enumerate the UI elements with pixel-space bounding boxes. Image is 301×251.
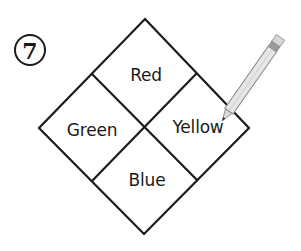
quadrant-label-top: Red — [130, 65, 162, 85]
quadrant-label-bottom: Blue — [129, 170, 166, 190]
diamond-diagram — [0, 0, 301, 251]
quadrant-label-right: Yellow — [172, 117, 223, 137]
pencil-icon — [218, 35, 285, 124]
quadrant-label-left: Green — [67, 120, 117, 140]
